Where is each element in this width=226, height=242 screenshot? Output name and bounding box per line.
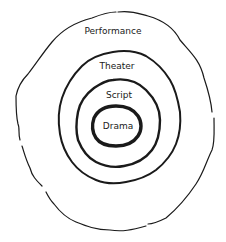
label-performance: Performance — [84, 26, 141, 36]
label-script: Script — [106, 90, 133, 100]
nested-circles-diagram: Performance Theater Script Drama — [0, 0, 226, 242]
label-theater: Theater — [98, 61, 134, 71]
label-drama: Drama — [103, 121, 133, 131]
